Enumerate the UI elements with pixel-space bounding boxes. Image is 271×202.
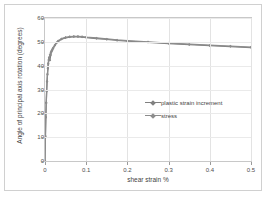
chart-legend: plastic strain increment stress bbox=[145, 96, 250, 122]
gridline-horizontal bbox=[45, 66, 251, 67]
gridline-vertical bbox=[251, 18, 252, 161]
x-axis-title: shear strain % bbox=[44, 176, 252, 183]
legend-label: stress bbox=[161, 112, 177, 120]
x-axis-ticks: 00.10.20.30.40.5 bbox=[44, 162, 252, 176]
x-tick-label: 0.5 bbox=[239, 167, 263, 174]
x-tick-label: 0.4 bbox=[198, 167, 222, 174]
x-tick-label: 0 bbox=[33, 167, 57, 174]
x-tick-mark bbox=[45, 162, 46, 165]
gridline-horizontal bbox=[45, 18, 251, 19]
gridline-horizontal bbox=[45, 137, 251, 138]
legend-marker-icon bbox=[145, 111, 161, 120]
x-tick-label: 0.3 bbox=[157, 167, 181, 174]
legend-marker-icon bbox=[145, 98, 161, 107]
x-tick-mark bbox=[127, 162, 128, 165]
x-tick-mark bbox=[86, 162, 87, 165]
legend-item-plastic-strain-increment: plastic strain increment bbox=[145, 96, 250, 109]
legend-label: plastic strain increment bbox=[161, 99, 222, 107]
x-tick-mark bbox=[210, 162, 211, 165]
legend-item-stress: stress bbox=[145, 109, 250, 122]
x-tick-mark bbox=[251, 162, 252, 165]
x-tick-label: 0.2 bbox=[115, 167, 139, 174]
plot-area bbox=[44, 17, 252, 162]
x-tick-label: 0.1 bbox=[74, 167, 98, 174]
gridline-horizontal bbox=[45, 90, 251, 91]
y-axis-ticks: 0102030405060 bbox=[16, 17, 44, 162]
x-tick-mark bbox=[169, 162, 170, 165]
gridline-horizontal bbox=[45, 42, 251, 43]
chart-figure: Angle of principal axis rotation (degree… bbox=[0, 0, 271, 202]
